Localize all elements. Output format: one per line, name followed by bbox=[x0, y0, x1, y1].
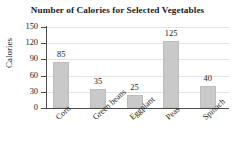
bar-value-label: 125 bbox=[156, 30, 186, 38]
y-tick-label: 0 bbox=[14, 104, 38, 112]
bar bbox=[163, 41, 179, 109]
y-tick-label: 120 bbox=[14, 39, 38, 47]
bar bbox=[53, 62, 69, 108]
bar-value-label: 35 bbox=[83, 78, 113, 86]
chart-title: Number of Calories for Selected Vegetabl… bbox=[0, 5, 235, 16]
bar-value-label: 40 bbox=[193, 75, 223, 83]
y-tick-label: 30 bbox=[14, 88, 38, 96]
y-axis-title: Calories bbox=[4, 28, 14, 78]
plot-area: 85352512540 bbox=[46, 27, 229, 108]
y-tick-label: 150 bbox=[14, 23, 38, 31]
y-tick-label: 90 bbox=[14, 55, 38, 63]
bar-chart-figure: Number of Calories for Selected Vegetabl… bbox=[0, 0, 235, 164]
y-tick-label: 60 bbox=[14, 72, 38, 80]
bar-value-label: 85 bbox=[46, 51, 76, 59]
